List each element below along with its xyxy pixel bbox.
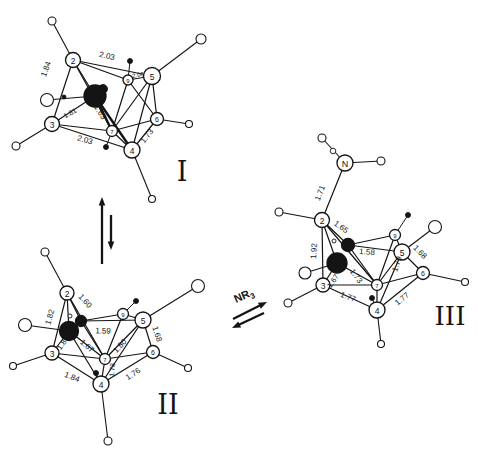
atom-number-II-6: 6: [151, 349, 155, 356]
atom-number-III-4: 4: [375, 306, 380, 316]
hydrogen-atom: [41, 248, 49, 256]
hydrogen-atom: [275, 208, 283, 216]
atom-number-II-3: 3: [50, 349, 55, 359]
hydrogen-atom: [12, 142, 20, 150]
atom-number-I-3: 3: [50, 120, 55, 130]
figure-background: [0, 0, 478, 456]
atom-number-I-4: 4: [130, 146, 135, 156]
hydrogen-atom: [185, 365, 192, 372]
bridge-h-dot: [94, 371, 99, 376]
molecular-scheme-svg: 25937462.031.841.811.632.032.061.73I2395…: [0, 0, 478, 456]
carbon-atom-II-C1: [76, 316, 87, 327]
bridge-h-dot: [370, 296, 375, 301]
hydrogen-atom: [104, 437, 112, 445]
hydrogen-atom: [299, 267, 311, 279]
hydrogen-atom: [196, 34, 206, 44]
bridge-h-dot: [68, 314, 72, 318]
carbon-atom-III-C2: [327, 253, 347, 273]
atom-number-III-N: N: [342, 159, 349, 169]
hydrogen-atom: [377, 157, 385, 165]
hydrogen-atom: [318, 134, 326, 142]
hydrogen-atom: [186, 121, 193, 128]
atom-number-I-6: 6: [155, 116, 159, 123]
hydrogen-atom: [462, 279, 469, 286]
hydrogen-atom: [378, 341, 385, 348]
atom-number-I-5: 5: [150, 72, 155, 82]
bridge-h-dot: [332, 239, 336, 243]
figure: 25937462.031.841.811.632.032.061.73I2395…: [0, 0, 478, 456]
hydrogen-atom: [41, 94, 54, 107]
hydrogen-atom: [19, 319, 32, 332]
hydrogen-atom: [149, 196, 156, 203]
carbon-atom-III-C1: [342, 239, 355, 252]
atom-number-II-5: 5: [141, 316, 146, 326]
bridge-h-dot: [134, 299, 139, 304]
compound-label-I: I: [177, 156, 188, 187]
hydrogen-atom: [10, 363, 17, 370]
bond-length-label-III-2-3: 1.92: [309, 242, 319, 259]
compound-label-III: III: [435, 301, 466, 331]
bridge-h-dot: [62, 95, 66, 99]
bridge-h-dot: [128, 59, 133, 64]
compound-label-II: II: [157, 389, 178, 420]
atom-number-III-2: 2: [320, 216, 325, 226]
bridge-h-dot: [330, 148, 336, 154]
atom-number-III-6: 6: [421, 270, 425, 277]
hydrogen-atom: [284, 299, 292, 307]
atom-number-II-2: 2: [65, 289, 70, 299]
bond-length-label-II-7-4: 1.78: [108, 363, 116, 377]
bond-length-label-II-C1-5: 1.59: [95, 326, 111, 336]
bridge-h-dot: [104, 145, 109, 150]
carbon-atom-I-C: [84, 85, 106, 107]
bridge-h-dot: [406, 213, 411, 218]
atom-number-III-5: 5: [400, 248, 405, 258]
atom-number-I-2: 2: [71, 56, 76, 66]
hydrogen-atom: [48, 17, 56, 25]
hydrogen-atom: [429, 221, 442, 234]
hydrogen-atom: [192, 280, 205, 293]
atom-number-II-4: 4: [99, 380, 104, 390]
bond-length-label-III-C1-5: 1.58: [359, 247, 376, 257]
atom-number-III-3: 3: [321, 281, 326, 291]
